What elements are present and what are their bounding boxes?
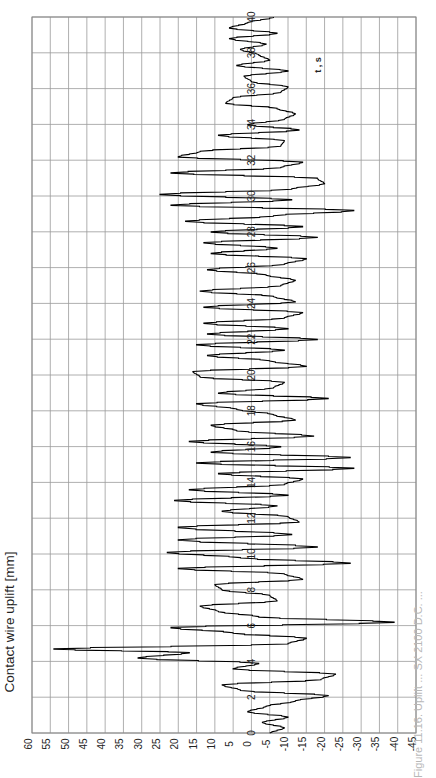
svg-text:40: 40 — [96, 738, 107, 750]
svg-text:14: 14 — [246, 476, 257, 488]
svg-text:5: 5 — [224, 741, 235, 747]
svg-text:-25: -25 — [334, 736, 345, 751]
svg-text:8: 8 — [246, 587, 257, 593]
svg-text:60: 60 — [23, 738, 34, 750]
svg-text:30: 30 — [133, 738, 144, 750]
svg-text:32: 32 — [246, 154, 257, 166]
svg-text:22: 22 — [246, 333, 257, 345]
time-axis-title: t , s — [313, 57, 323, 73]
svg-text:15: 15 — [188, 738, 199, 750]
svg-text:-5: -5 — [261, 739, 272, 748]
svg-text:2: 2 — [246, 694, 257, 700]
svg-text:30: 30 — [246, 190, 257, 202]
svg-text:20: 20 — [246, 369, 257, 381]
svg-text:50: 50 — [60, 738, 71, 750]
svg-text:10: 10 — [206, 738, 217, 750]
svg-text:20: 20 — [169, 738, 180, 750]
svg-text:10: 10 — [246, 548, 257, 560]
svg-text:28: 28 — [246, 226, 257, 238]
svg-text:40: 40 — [246, 11, 257, 23]
svg-text:35: 35 — [114, 738, 125, 750]
svg-text:36: 36 — [246, 83, 257, 95]
svg-text:4: 4 — [246, 658, 257, 664]
svg-text:-10: -10 — [279, 736, 290, 751]
time-axis-labels: 0246810121416182022242628303234363840 — [246, 11, 257, 736]
svg-text:-30: -30 — [352, 736, 363, 751]
uplift-axis-labels: 605550454035302520151050-5-10-15-20-25-3… — [23, 736, 418, 751]
svg-text:16: 16 — [246, 441, 257, 453]
svg-text:0: 0 — [246, 730, 257, 736]
svg-text:25: 25 — [151, 738, 162, 750]
svg-text:-15: -15 — [297, 736, 308, 751]
svg-text:26: 26 — [246, 262, 257, 274]
y-axis-title: Contact wire uplift [mm] — [2, 522, 22, 722]
svg-text:34: 34 — [246, 118, 257, 130]
svg-text:6: 6 — [246, 622, 257, 628]
svg-text:55: 55 — [41, 738, 52, 750]
svg-text:-35: -35 — [370, 736, 381, 751]
svg-text:18: 18 — [246, 405, 257, 417]
svg-text:45: 45 — [78, 738, 89, 750]
svg-text:38: 38 — [246, 47, 257, 59]
svg-text:12: 12 — [246, 512, 257, 524]
svg-text:0: 0 — [242, 741, 253, 747]
svg-text:24: 24 — [246, 297, 257, 309]
figure-caption: Figure 11.16. Uplift ... SX 2100 D.C. ..… — [412, 378, 428, 778]
svg-text:-40: -40 — [389, 736, 400, 751]
svg-text:-20: -20 — [316, 736, 327, 751]
